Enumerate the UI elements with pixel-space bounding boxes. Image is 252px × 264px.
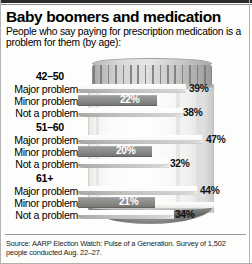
bar-value: 22% xyxy=(120,94,140,106)
top-rule-hairline xyxy=(0,4,252,5)
bar-row: Not a problem 34% xyxy=(0,209,250,221)
row-label: Not a problem xyxy=(0,107,78,119)
bar-value: 39% xyxy=(189,83,209,95)
bar-row: Not a problem 32% xyxy=(0,158,250,170)
page-title: Baby boomers and medication xyxy=(6,8,246,25)
row-label: Major problem xyxy=(0,134,78,146)
header: Baby boomers and medication People who s… xyxy=(6,8,246,49)
age-group-label: 51–60 xyxy=(0,121,78,133)
row-label: Minor problem xyxy=(0,95,78,107)
bar-none-underline xyxy=(78,215,174,219)
top-rule xyxy=(0,0,252,3)
row-label: Major problem xyxy=(0,83,78,95)
bar-major-underline xyxy=(78,89,186,93)
row-label: Minor problem xyxy=(0,146,78,158)
bar-none-underline xyxy=(78,113,183,117)
bar-row: Minor problem 22% xyxy=(0,95,250,107)
footer-rule xyxy=(5,234,246,235)
bar-row: Minor problem 20% xyxy=(0,146,250,158)
source-note: Source: AARP Election Watch: Pulse of a … xyxy=(6,239,244,257)
bar-minor xyxy=(78,146,152,157)
row-label: Minor problem xyxy=(0,197,78,209)
infographic-frame: Baby boomers and medication People who s… xyxy=(0,0,252,264)
bar-row: Not a problem 38% xyxy=(0,107,250,119)
bar-none-underline xyxy=(78,164,169,168)
bar-major-underline xyxy=(78,191,197,195)
age-group-label: 61+ xyxy=(0,172,78,184)
age-group-label: 42–50 xyxy=(0,70,78,82)
bar-value: 21% xyxy=(119,196,139,208)
bar-minor xyxy=(78,95,157,106)
row-label: Major problem xyxy=(0,185,78,197)
bar-major-underline xyxy=(78,140,202,144)
bar-value: 20% xyxy=(116,145,136,157)
bar-row: Minor problem 21% xyxy=(0,197,250,209)
bar-value: 38% xyxy=(183,107,203,119)
bar-value: 44% xyxy=(200,185,220,197)
row-label: Not a problem xyxy=(0,158,78,170)
chart-area: 42–50 Major problem 39% Minor problem 22… xyxy=(0,56,250,233)
chart-subtitle: People who say paying for prescription m… xyxy=(6,26,242,49)
bar-value: 47% xyxy=(206,134,226,146)
row-label: Not a problem xyxy=(0,209,78,221)
bar-value: 32% xyxy=(170,158,190,170)
bar-minor xyxy=(78,197,155,208)
bar-value: 34% xyxy=(175,209,195,221)
